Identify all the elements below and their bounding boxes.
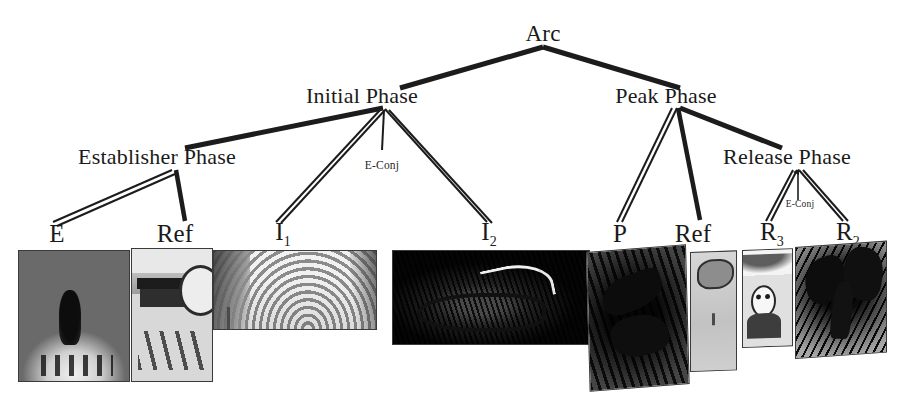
comic-panel-ref-establisher	[131, 248, 213, 382]
edge-arc-initial	[400, 47, 543, 88]
node-initial-phase[interactable]: Initial Phase	[306, 83, 418, 109]
panel-e-figure	[59, 290, 81, 345]
leaf-r3-subscript: 3	[777, 234, 784, 249]
leaf-r2-base: R	[836, 218, 853, 245]
leaf-i2-base: I	[481, 218, 490, 245]
leaf-i1-base: I	[275, 218, 284, 245]
panel-r3-eye-right	[765, 294, 770, 299]
diagram-canvas: Arc Initial Phase Peak Phase Establisher…	[0, 0, 899, 403]
comic-panel-r3	[742, 248, 793, 348]
leaf-label-e[interactable]: E	[49, 220, 64, 248]
edge-arc-peak	[543, 47, 680, 88]
edge-release-r2	[799, 170, 848, 221]
panel-r3-body	[747, 313, 781, 339]
edge-initial-econj	[382, 110, 384, 150]
edge-peak-release	[680, 108, 782, 148]
edge-peak-ref	[678, 108, 700, 220]
node-release-phase[interactable]: Release Phase	[723, 144, 851, 170]
econj-label-release: E-Conj	[786, 199, 815, 209]
econj-label-initial: E-Conj	[365, 159, 399, 171]
node-establisher-phase[interactable]: Establisher Phase	[78, 144, 236, 170]
panel-ref1-footprints	[138, 331, 206, 371]
panel-i1-left-shadow	[214, 251, 250, 329]
panel-i1-right-shadow	[350, 251, 376, 329]
edge-initial-i2	[385, 109, 492, 223]
edge-initial-establisher	[185, 108, 383, 148]
node-peak-phase[interactable]: Peak Phase	[615, 83, 717, 109]
comic-panel-p	[586, 244, 690, 392]
leaf-i1-subscript: 1	[284, 234, 291, 249]
edge-peak-p	[617, 108, 677, 222]
comic-panel-r2	[795, 241, 887, 359]
leaf-label-p[interactable]: P	[613, 220, 627, 248]
comic-panel-ref-peak	[690, 250, 737, 372]
leaf-label-r3[interactable]: R3	[760, 218, 784, 250]
panel-r3-top-shade	[742, 253, 793, 274]
leaf-i2-subscript: 2	[490, 234, 497, 249]
panel-ref2-figure	[712, 313, 716, 325]
panel-ref1-arch	[179, 265, 213, 316]
comic-panel-e	[18, 250, 130, 382]
leaf-label-i1[interactable]: I1	[275, 218, 291, 250]
edge-establisher-e	[53, 170, 175, 226]
panel-i1-figure	[227, 307, 230, 329]
comic-panel-i2	[392, 250, 590, 345]
leaf-label-ref-establisher[interactable]: Ref	[157, 220, 194, 248]
edge-establisher-ref	[176, 170, 185, 221]
leaf-label-i2[interactable]: I2	[481, 218, 497, 250]
panel-e-footprints	[41, 355, 113, 376]
comic-panel-i1	[213, 250, 377, 330]
node-arc[interactable]: Arc	[525, 21, 560, 47]
leaf-r3-base: R	[760, 218, 777, 245]
edge-release-r3	[766, 170, 797, 221]
